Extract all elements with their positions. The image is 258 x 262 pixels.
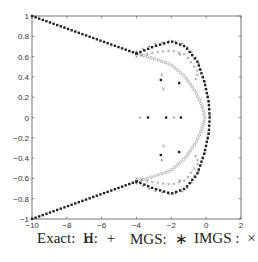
mgs-point (194, 57, 196, 59)
legend-label-h: H: (83, 230, 98, 246)
imgs-point (190, 61, 192, 63)
y-tick-label: 0.4 (18, 73, 30, 82)
imgs-point (173, 183, 175, 185)
imgs-point (193, 167, 195, 169)
mgs-point (199, 164, 201, 166)
mgs-point (78, 32, 80, 34)
x-tick-label: 2 (239, 221, 244, 230)
mgs-point (151, 46, 153, 48)
mgs-point (81, 33, 83, 35)
exact-point (150, 176, 153, 179)
legend: Exact: o H: + MGS: ∗ IMGS : × (0, 230, 258, 252)
mgs-point (85, 198, 87, 200)
mgs-point (188, 182, 190, 184)
mgs-point (208, 129, 210, 131)
legend-label-mgs: MGS: (130, 231, 167, 247)
x-tick-label: −2 (167, 221, 177, 230)
exact-point (202, 109, 205, 112)
mgs-point (56, 24, 58, 26)
mgs-point (67, 28, 69, 30)
exact-point (146, 177, 149, 180)
legend-item-mgs: MGS: ∗ (130, 230, 188, 248)
mgs-point (151, 187, 153, 189)
mgs-point (96, 194, 98, 196)
x-tick-label: −8 (62, 221, 72, 230)
y-tick-label: −1 (20, 215, 30, 224)
imgs-point (196, 163, 198, 165)
mgs-point (85, 34, 87, 36)
y-tick-label: −0.6 (13, 174, 29, 183)
imgs-point (157, 51, 159, 53)
exact-point (168, 63, 171, 66)
mgs-point (208, 108, 210, 110)
exact-point (153, 58, 156, 61)
exact-point (171, 64, 174, 67)
mgs-point (206, 141, 208, 143)
imgs-point (167, 183, 169, 185)
mgs-point (208, 104, 210, 106)
mgs-point (52, 23, 54, 25)
mgs-point (200, 160, 202, 162)
exact-point (191, 147, 194, 150)
exact-point (174, 166, 177, 169)
exact-point (189, 83, 192, 86)
mgs-point (196, 60, 198, 62)
mgs-point (180, 116, 182, 118)
h-point (148, 45, 151, 48)
legend-label-imgs: IMGS : (194, 230, 239, 246)
x-tick-label: 0 (204, 221, 209, 230)
imgs-point (178, 52, 180, 54)
mgs-point (117, 187, 119, 189)
exact-point (189, 150, 192, 153)
y-tick-label: −0.4 (13, 154, 29, 163)
scatter-chart: −10−8−6−4−202−1−0.8−0.6−0.4−0.200.20.40.… (0, 0, 258, 230)
mgs-point (124, 48, 126, 50)
legend-marker-mgs: ∗ (175, 231, 188, 247)
exact-point (193, 144, 196, 147)
y-tick-label: 0.8 (18, 32, 30, 41)
mgs-point (45, 213, 47, 215)
exact-point (198, 134, 201, 137)
exact-point (187, 153, 190, 156)
imgs-point (146, 53, 148, 55)
imgs-point (173, 50, 175, 52)
mgs-point (178, 151, 180, 153)
mgs-point (147, 48, 149, 50)
mgs-point (45, 20, 47, 22)
imgs-point (196, 159, 198, 161)
mgs-point (188, 51, 190, 53)
imgs-point (167, 50, 169, 52)
exact-point (195, 140, 198, 143)
exact-point (203, 113, 206, 116)
mgs-point (203, 153, 205, 155)
exact-point (182, 74, 185, 77)
mgs-point (198, 64, 200, 66)
mgs-point (165, 116, 167, 118)
imgs-point (157, 182, 159, 184)
exact-point (157, 174, 160, 177)
h-point (148, 187, 151, 190)
mgs-point (56, 209, 58, 211)
exact-point (176, 163, 179, 166)
exact-point (171, 168, 174, 171)
mgs-point (183, 188, 185, 190)
mgs-point (52, 210, 54, 212)
mgs-point (31, 15, 33, 17)
mgs-point (128, 50, 130, 52)
exact-point (179, 72, 182, 75)
mgs-point (204, 84, 206, 86)
mgs-point (160, 154, 162, 156)
exact-point (200, 102, 203, 105)
mgs-point (175, 42, 177, 44)
mgs-point (204, 149, 206, 151)
mgs-point (99, 39, 101, 41)
mgs-point (159, 43, 161, 45)
mgs-point (128, 183, 130, 185)
y-tick-label: −0.2 (13, 134, 29, 143)
mgs-point (206, 92, 208, 94)
h-point (160, 74, 163, 77)
mgs-point (167, 41, 169, 43)
mgs-point (171, 192, 173, 194)
mgs-point (160, 79, 162, 81)
mgs-point (163, 42, 165, 44)
